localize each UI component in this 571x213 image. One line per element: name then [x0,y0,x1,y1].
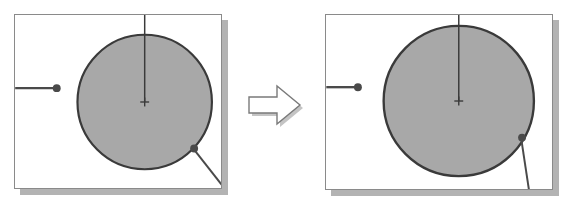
figure-canvas [0,0,571,213]
after-panel-frame[interactable] [325,14,553,190]
right-arrow-outline [249,86,300,124]
before-panel-sketch [15,15,221,188]
before-panel-frame[interactable] [14,14,222,189]
transition-arrow [246,80,308,132]
right-arrow-icon [246,80,308,132]
tangent-point-dot[interactable] [518,134,526,142]
after-panel-sketch [326,15,552,189]
after-panel-group [320,0,571,213]
tangent-line[interactable] [193,148,221,188]
tangent-line[interactable] [521,138,529,189]
left-leader-dot[interactable] [53,84,61,92]
tangent-point-dot[interactable] [190,145,198,153]
left-leader-dot[interactable] [354,83,362,91]
before-panel-group [0,0,240,213]
